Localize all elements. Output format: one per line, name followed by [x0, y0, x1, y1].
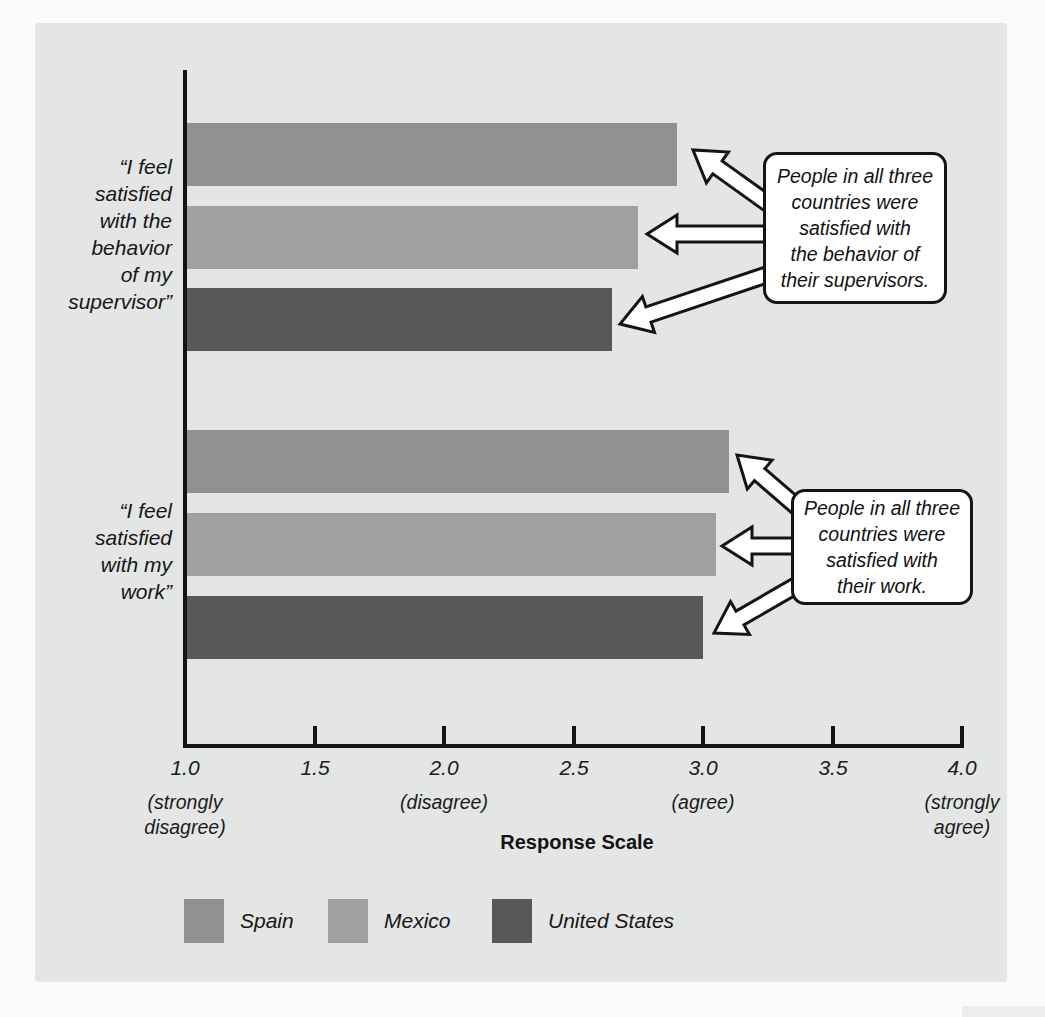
category-label-line: satisfied [40, 180, 172, 207]
category-label-line: with the [40, 207, 172, 234]
category-label-line: with my [40, 551, 172, 578]
x-scale-annotation-1: (stronglydisagree) [110, 790, 260, 840]
x-scale-annotation-2: (disagree) [369, 790, 519, 815]
x-tick-label-4.0: 4.0 [927, 756, 997, 780]
x-axis-line [183, 744, 964, 748]
callout-line: their supervisors. [781, 267, 929, 293]
callout-line: satisfied with [799, 215, 911, 241]
bar-united-states-group1 [187, 288, 612, 351]
x-tick-label-2.5: 2.5 [539, 756, 609, 780]
category-label-line: of my [40, 261, 172, 288]
x-scale-annotation-line: (strongly [887, 790, 1037, 815]
x-scale-annotation-3: (agree) [628, 790, 778, 815]
category-label-line: satisfied [40, 524, 172, 551]
category-label-2: “I feelsatisfiedwith mywork” [40, 497, 172, 605]
legend-item-spain: Spain [184, 899, 294, 943]
category-label-line: “I feel [40, 497, 172, 524]
category-label-1: “I feelsatisfiedwith thebehaviorof mysup… [40, 153, 172, 315]
figure: “I feelsatisfiedwith thebehaviorof mysup… [0, 0, 1045, 1017]
callout-line: People in all three [777, 163, 933, 189]
legend-label: Spain [240, 909, 294, 933]
x-scale-annotation-line: (disagree) [369, 790, 519, 815]
bar-mexico-group2 [187, 513, 716, 576]
callout-line: their work. [837, 573, 927, 599]
bar-spain-group2 [187, 430, 729, 493]
bar-spain-group1 [187, 123, 677, 186]
callout-supervisor: People in all threecountries weresatisfi… [763, 152, 947, 304]
x-axis-title: Response Scale [477, 831, 677, 854]
y-axis-line [183, 70, 187, 748]
x-scale-annotation-line: disagree) [110, 815, 260, 840]
category-label-line: behavior [40, 234, 172, 261]
x-tick-label-2.0: 2.0 [409, 756, 479, 780]
bar-mexico-group1 [187, 206, 638, 269]
category-label-line: work” [40, 578, 172, 605]
x-scale-annotation-line: (strongly [110, 790, 260, 815]
legend-swatch-icon [492, 899, 532, 943]
x-tick-label-3.0: 3.0 [668, 756, 738, 780]
legend-item-united-states: United States [492, 899, 674, 943]
x-tick-3.5 [831, 726, 835, 744]
x-tick-4.0 [960, 726, 964, 744]
legend-label: United States [548, 909, 674, 933]
callout-line: satisfied with [826, 547, 938, 573]
callout-line: countries were [792, 189, 919, 215]
callout-work: People in all threecountries weresatisfi… [791, 489, 973, 605]
page-artifact [962, 1006, 1045, 1017]
x-tick-3.0 [701, 726, 705, 744]
legend-item-mexico: Mexico [328, 899, 451, 943]
x-tick-label-1.5: 1.5 [280, 756, 350, 780]
x-tick-2.5 [572, 726, 576, 744]
legend-swatch-icon [328, 899, 368, 943]
bar-united-states-group2 [187, 596, 703, 659]
callout-line: the behavior of [790, 241, 919, 267]
legend-label: Mexico [384, 909, 451, 933]
legend-swatch-icon [184, 899, 224, 943]
x-tick-1.5 [313, 726, 317, 744]
callout-line: countries were [819, 521, 946, 547]
category-label-line: “I feel [40, 153, 172, 180]
x-scale-annotation-4: (stronglyagree) [887, 790, 1037, 840]
callout-line: People in all three [804, 495, 960, 521]
x-scale-annotation-line: (agree) [628, 790, 778, 815]
category-label-line: supervisor” [40, 288, 172, 315]
x-tick-label-3.5: 3.5 [798, 756, 868, 780]
x-tick-label-1.0: 1.0 [150, 756, 220, 780]
x-scale-annotation-line: agree) [887, 815, 1037, 840]
x-tick-2.0 [442, 726, 446, 744]
